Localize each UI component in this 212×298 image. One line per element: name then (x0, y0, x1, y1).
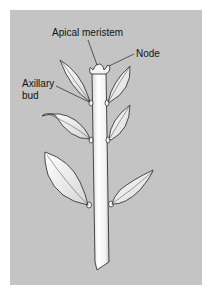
plant-stem-illustration (0, 0, 212, 298)
label-axillary-bud-line2: bud (22, 90, 39, 101)
label-node: Node (136, 48, 160, 59)
apical-meristem-tip (90, 64, 110, 74)
label-apical-meristem: Apical meristem (52, 27, 123, 38)
label-axillary-bud-line1: Axillary (22, 78, 54, 89)
